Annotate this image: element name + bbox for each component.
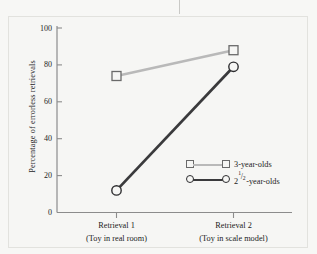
legend-key-3-year-olds — [186, 159, 230, 171]
legend-fraction-one-half: 1/2 — [238, 174, 246, 184]
legend: 3-year-olds 21/2-year-olds — [186, 157, 280, 187]
y-tick-label-100: 100 — [26, 24, 52, 33]
data-point-2halfyo-retrieval-1 — [112, 186, 121, 195]
legend-square-marker-right — [222, 160, 230, 168]
y-tick-marks — [57, 28, 62, 176]
x-tick-label-retrieval-2-line2: (Toy in scale model) — [174, 233, 294, 246]
legend-label-suffix: -year-olds — [246, 177, 279, 186]
x-tick-label-retrieval-1: Retrieval 1 (Toy in real room) — [57, 220, 177, 245]
legend-item-3-year-olds: 3-year-olds — [186, 157, 280, 172]
legend-key-2-and-a-half-year-olds — [186, 174, 230, 186]
legend-label-2-and-a-half-year-olds: 21/2-year-olds — [234, 174, 280, 186]
x-tick-label-retrieval-1-line2: (Toy in real room) — [57, 233, 177, 246]
y-tick-label-80: 80 — [26, 60, 52, 69]
y-tick-label-40: 40 — [26, 134, 52, 143]
legend-circle-marker-right — [222, 175, 230, 183]
y-tick-label-20: 20 — [26, 171, 52, 180]
series-line-3-year-olds — [117, 50, 234, 76]
fraction-denominator: 2 — [243, 175, 246, 181]
x-tick-label-retrieval-2: Retrieval 2 (Toy in scale model) — [174, 220, 294, 245]
legend-line-dark — [193, 179, 223, 182]
x-tick-label-retrieval-1-line1: Retrieval 1 — [98, 221, 135, 230]
x-tick-marks — [117, 213, 234, 219]
data-point-3yo-retrieval-2 — [229, 46, 238, 55]
data-point-3yo-retrieval-1 — [112, 72, 121, 81]
data-point-2halfyo-retrieval-2 — [229, 62, 238, 71]
figure-chart-errorless-retrievals: Percentage of errorless retrievals 100 8… — [0, 0, 317, 254]
legend-item-2-and-a-half-year-olds: 21/2-year-olds — [186, 172, 280, 187]
legend-line-light — [193, 164, 223, 166]
legend-label-3-year-olds: 3-year-olds — [234, 160, 272, 169]
y-tick-label-0: 0 — [26, 208, 52, 217]
x-tick-label-retrieval-2-line1: Retrieval 2 — [215, 221, 252, 230]
y-axis-title: Percentage of errorless retrievals — [28, 22, 37, 212]
y-tick-label-60: 60 — [26, 97, 52, 106]
